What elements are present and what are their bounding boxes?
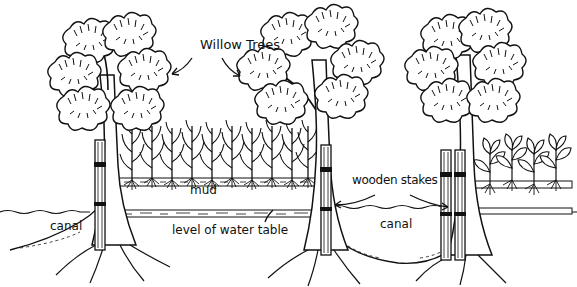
label-wooden-stakes: wooden stakes bbox=[352, 174, 438, 186]
label-willow-trees: Willow Trees bbox=[200, 38, 280, 51]
chinampa-illustration bbox=[0, 0, 577, 287]
label-water-table: level of water table bbox=[172, 224, 288, 236]
crop-bed-leafy bbox=[472, 134, 572, 214]
crop-bed-corn bbox=[118, 120, 320, 217]
label-canal-left: canal bbox=[50, 220, 82, 232]
label-canal-center: canal bbox=[380, 218, 412, 230]
wooden-stakes bbox=[94, 140, 466, 260]
label-mud: mud bbox=[190, 184, 217, 196]
